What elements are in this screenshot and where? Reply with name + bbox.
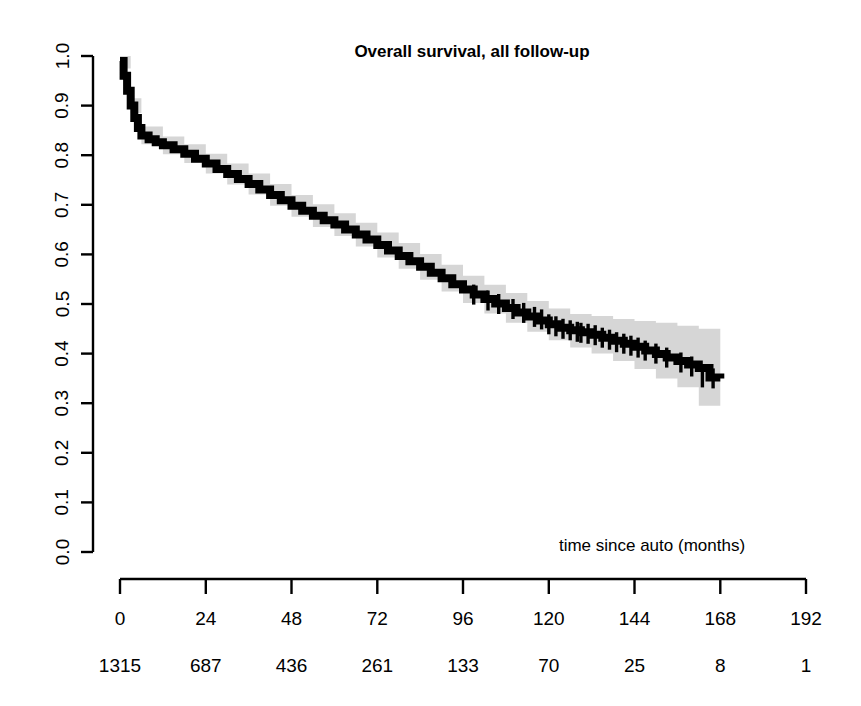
y-tick-label: 0.5: [52, 291, 73, 317]
y-tick-label: 0.0: [52, 539, 73, 565]
y-tick-label: 0.3: [52, 390, 73, 416]
x-tick-label: 48: [281, 608, 302, 629]
y-tick-label: 0.2: [52, 440, 73, 466]
x-tick-label: 120: [533, 608, 565, 629]
x-tick-label: 24: [195, 608, 217, 629]
number-at-risk-value: 436: [276, 655, 308, 676]
kaplan-meier-figure: 0.00.10.20.30.40.50.60.70.80.91.0 024487…: [0, 0, 861, 706]
number-at-risk-value: 133: [447, 655, 479, 676]
y-tick-label: 1.0: [52, 43, 73, 69]
x-tick-label: 96: [452, 608, 473, 629]
number-at-risk-value: 1: [801, 655, 812, 676]
x-tick-label: 0: [115, 608, 126, 629]
number-at-risk-value: 1315: [99, 655, 141, 676]
y-tick-label: 0.8: [52, 142, 73, 168]
number-at-risk-value: 70: [538, 655, 559, 676]
number-at-risk-value: 261: [361, 655, 393, 676]
number-at-risk-value: 25: [624, 655, 645, 676]
y-tick-label: 0.6: [52, 241, 73, 267]
y-tick-label: 0.9: [52, 92, 73, 118]
number-at-risk-value: 687: [190, 655, 222, 676]
y-tick-label: 0.4: [52, 340, 73, 367]
x-tick-label: 72: [367, 608, 388, 629]
x-tick-label: 168: [704, 608, 736, 629]
x-axis-title: time since auto (months): [559, 536, 745, 555]
number-at-risk-value: 8: [715, 655, 726, 676]
y-tick-label: 0.1: [52, 489, 73, 515]
y-tick-label: 0.7: [52, 192, 73, 218]
survival-plot-canvas: 0.00.10.20.30.40.50.60.70.80.91.0 024487…: [0, 0, 861, 706]
x-tick-label: 192: [790, 608, 822, 629]
chart-title: Overall survival, all follow-up: [354, 42, 589, 61]
x-tick-label: 144: [619, 608, 651, 629]
